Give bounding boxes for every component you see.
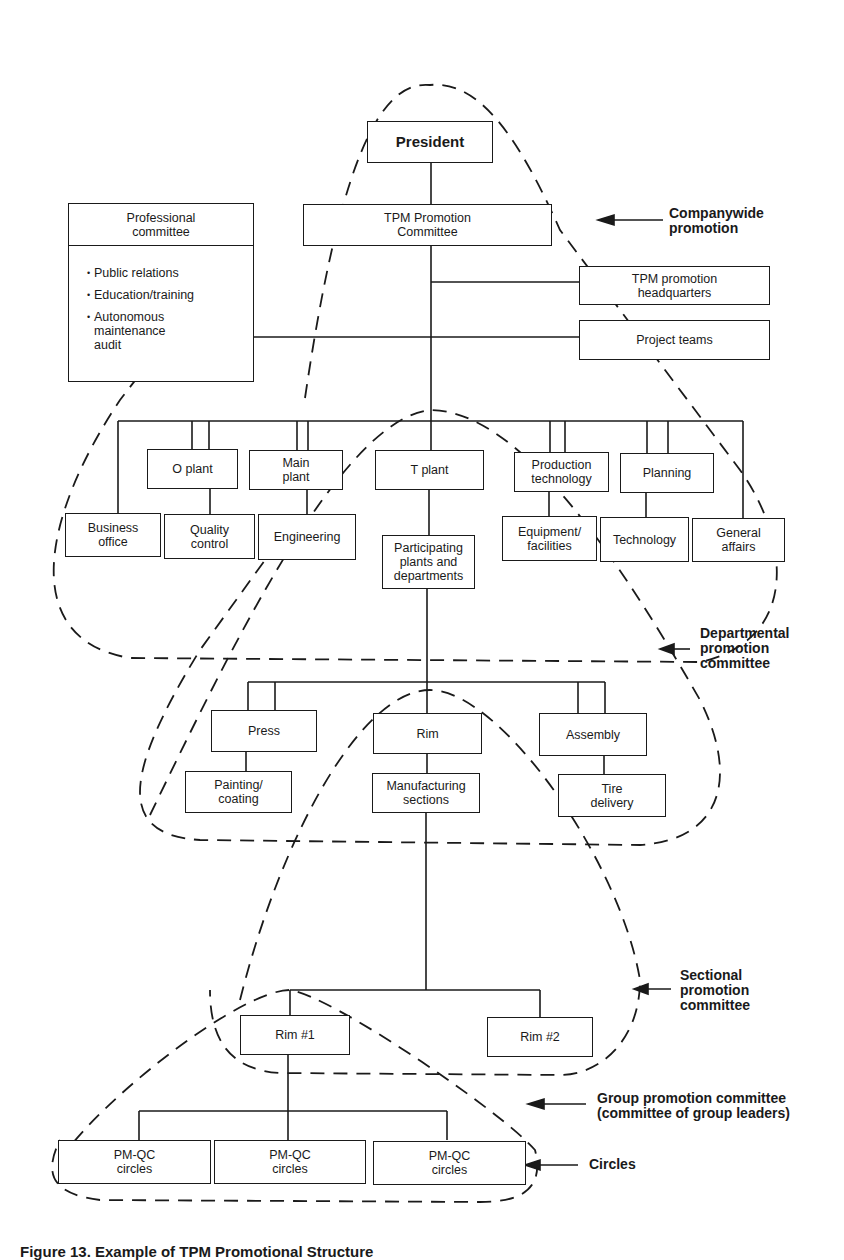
rim-1-box: Rim #1 <box>240 1015 350 1055</box>
professional-committee-item: Education/training <box>87 288 253 302</box>
production-technology-box: Production technology <box>514 452 609 492</box>
circles-label: Circles <box>589 1157 636 1172</box>
departmental-promotion-label: Departmental promotion committee <box>700 626 789 671</box>
o-plant-box: O plant <box>147 449 238 489</box>
equipment-facilities-box: Equipment/ facilities <box>502 516 597 561</box>
general-affairs-box: General affairs <box>692 518 785 562</box>
professional-committee-list: Public relations Education/training Auto… <box>69 246 253 352</box>
professional-committee-item: Public relations <box>87 266 253 280</box>
professional-committee-box: Professional committee Public relations … <box>68 203 254 382</box>
tire-delivery-box: Tire delivery <box>558 774 666 817</box>
engineering-box: Engineering <box>258 514 356 560</box>
main-plant-box: Main plant <box>249 450 343 490</box>
president-box: President <box>367 121 493 163</box>
rim-box: Rim <box>373 713 482 754</box>
professional-committee-title: Professional committee <box>69 204 253 246</box>
companywide-promotion-label: Companywide promotion <box>669 206 764 236</box>
manufacturing-sections-box: Manufacturing sections <box>372 773 480 813</box>
rim-2-box: Rim #2 <box>487 1017 593 1057</box>
tpm-promotion-headquarters-box: TPM promotion headquarters <box>579 266 770 305</box>
pm-qc-circles-box: PM-QC circles <box>58 1140 211 1184</box>
planning-box: Planning <box>620 453 714 493</box>
group-promotion-label: Group promotion committee (committee of … <box>597 1091 790 1121</box>
figure-caption: Figure 13. Example of TPM Promotional St… <box>20 1243 373 1260</box>
pm-qc-circles-box: PM-QC circles <box>214 1140 366 1184</box>
project-teams-box: Project teams <box>579 320 770 360</box>
tpm-promotion-committee-box: TPM Promotion Committee <box>303 204 552 246</box>
quality-control-box: Quality control <box>164 514 255 559</box>
professional-committee-item: Autonomous maintenance audit <box>87 310 253 352</box>
technology-box: Technology <box>600 517 689 562</box>
assembly-box: Assembly <box>539 713 647 756</box>
sectional-promotion-label: Sectional promotion committee <box>680 968 750 1013</box>
participating-plants-box: Participating plants and departments <box>382 535 475 589</box>
pm-qc-circles-box: PM-QC circles <box>373 1141 526 1185</box>
t-plant-box: T plant <box>375 450 484 490</box>
press-box: Press <box>211 710 317 752</box>
business-office-box: Business office <box>65 513 161 557</box>
painting-coating-box: Painting/ coating <box>185 771 292 813</box>
